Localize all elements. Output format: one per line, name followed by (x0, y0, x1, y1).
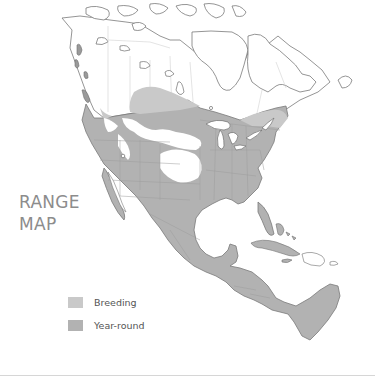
legend-item-year-round: Year-round (68, 319, 145, 331)
legend-label-breeding: Breeding (94, 297, 137, 308)
hispaniola (302, 252, 325, 266)
caribbean-islands (251, 224, 300, 263)
map-legend: Breeding Year-round (68, 296, 145, 342)
legend-item-breeding: Breeding (68, 296, 145, 308)
map-title: RANGE MAP (19, 191, 80, 235)
breeding-swatch (68, 297, 83, 308)
range-map (0, 0, 375, 377)
bottom-divider (0, 375, 375, 376)
year-round-swatch (68, 320, 83, 331)
legend-label-year-round: Year-round (94, 320, 145, 331)
map-title-line1: RANGE (19, 191, 80, 213)
canada-landmass (62, 4, 352, 129)
map-title-line2: MAP (19, 213, 80, 235)
puerto-rico (330, 261, 338, 265)
